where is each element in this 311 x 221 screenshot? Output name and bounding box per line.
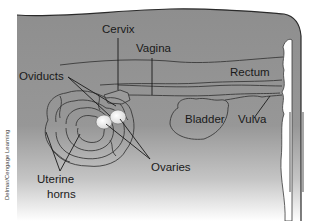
anatomy-diagram: Cervix Vagina Rectum Oviducts Bladder Vu… — [0, 0, 311, 221]
label-ovaries: Ovaries — [151, 162, 191, 174]
label-uterine-horns-line1: Uterine — [37, 174, 74, 186]
label-uterine-horns-line2: horns — [47, 189, 76, 201]
label-cervix: Cervix — [102, 24, 135, 36]
label-vulva: Vulva — [238, 114, 266, 126]
image-credit: Delmar/Cengage Learning — [4, 130, 10, 200]
ovary-right — [110, 110, 126, 124]
label-rectum: Rectum — [230, 67, 270, 79]
label-bladder: Bladder — [185, 114, 225, 126]
label-vagina: Vagina — [136, 43, 171, 55]
label-oviducts: Oviducts — [19, 71, 64, 83]
